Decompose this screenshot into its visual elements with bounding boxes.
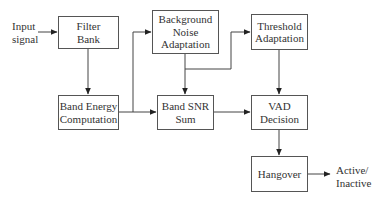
output-line-2: Inactive (336, 177, 371, 190)
filter-bank-line-2: Bank (77, 33, 100, 46)
vad-decision-block: VAD Decision (251, 95, 308, 130)
band-snr-line-1: Band SNR (162, 100, 209, 113)
active-inactive-label: Active/ Inactive (336, 164, 371, 189)
vad-line-2: Decision (260, 113, 299, 126)
threshold-line-1: Threshold (257, 20, 302, 33)
background-noise-line-2: Noise (173, 26, 199, 39)
threshold-adaptation-block: Threshold Adaptation (251, 14, 308, 50)
filter-bank-block: Filter Bank (58, 16, 119, 49)
band-energy-computation-block: Band Energy Computation (58, 95, 119, 130)
band-energy-line-2: Computation (60, 113, 117, 126)
vad-line-1: VAD (268, 100, 290, 113)
hangover-block: Hangover (251, 156, 308, 192)
hangover-line-1: Hangover (258, 168, 301, 181)
threshold-line-2: Adaptation (255, 32, 304, 45)
background-noise-adaptation-block: Background Noise Adaptation (152, 10, 219, 54)
filter-bank-line-1: Filter (77, 20, 101, 33)
input-signal-label: Input signal (12, 20, 38, 45)
band-snr-sum-block: Band SNR Sum (157, 95, 214, 130)
arrow-band-energy-to-background-noise (133, 32, 151, 112)
input-signal-line-1: Input (12, 20, 38, 33)
band-snr-line-2: Sum (175, 113, 195, 126)
output-line-1: Active/ (336, 164, 371, 177)
band-energy-line-1: Band Energy (60, 100, 118, 113)
background-noise-line-1: Background (159, 13, 213, 26)
input-signal-line-2: signal (12, 33, 38, 46)
background-noise-line-3: Adaptation (161, 38, 210, 51)
